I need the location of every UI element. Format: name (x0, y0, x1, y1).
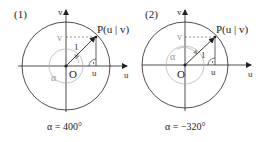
point-p-label: P(u | v) (97, 23, 129, 36)
u-axis-label: u (248, 69, 253, 79)
v-tick-label: v (177, 31, 182, 42)
diagram-1-label: (1) (14, 8, 27, 21)
diagram-2-label: (2) (145, 8, 158, 21)
right-angle-dot (212, 61, 213, 62)
origin-point (64, 64, 67, 67)
point-p (95, 36, 98, 39)
u-axis-label: u (124, 70, 129, 80)
v-axis-label: v (58, 7, 63, 17)
origin-label: O (177, 68, 185, 80)
diagram-2-caption: α = −320° (165, 121, 206, 132)
radius-label: 1 (201, 50, 206, 60)
right-angle-dot (93, 62, 94, 63)
radius-label: 1 (74, 42, 79, 52)
u-tick-label: u (92, 68, 97, 78)
origin-label: O (69, 68, 77, 80)
point-p-label: P(u | v) (216, 23, 248, 36)
right-angle-mark (208, 58, 215, 65)
diagram-1: (1) v u α 1 v u O P(u | v) α = 400° (14, 7, 129, 132)
u-tick-label: u (211, 67, 216, 77)
point-p (214, 36, 217, 39)
right-angle-mark (89, 59, 96, 66)
origin-point (183, 63, 186, 66)
v-tick-label: v (57, 32, 62, 43)
diagram-1-caption: α = 400° (47, 121, 82, 132)
diagram-2: (2) v u α 1 v u O P(u | v) α = −320° (142, 7, 253, 132)
angle-label: α (51, 72, 57, 83)
v-axis-label: v (177, 7, 182, 17)
angle-label: α (170, 51, 176, 62)
unit-circle-figure: (1) v u α 1 v u O P(u | v) α = 400° (2) … (0, 0, 263, 142)
